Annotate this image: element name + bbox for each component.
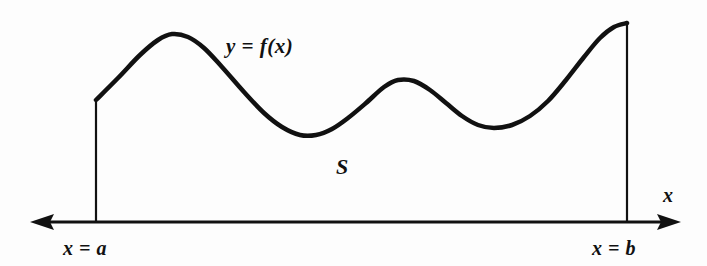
x-axis-label: x: [663, 185, 674, 205]
x-axis-group: [30, 214, 681, 230]
right-bound-label: x = b: [592, 238, 636, 258]
area-under-curve-diagram: [0, 0, 707, 266]
region-label-s: S: [336, 156, 349, 178]
left-bound-label: x = a: [63, 238, 107, 258]
function-curve: [96, 23, 627, 136]
curve-equation-label: y = f(x): [226, 36, 293, 57]
figure-container: y = f(x) S x x = a x = b: [0, 0, 707, 266]
